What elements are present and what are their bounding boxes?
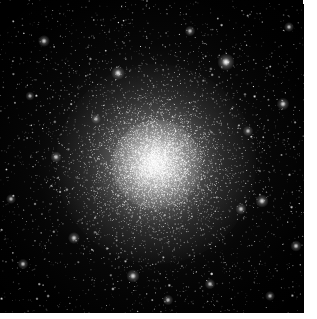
screenshot-root xyxy=(0,0,317,319)
page-margin-right xyxy=(304,0,317,319)
globular-cluster-photo xyxy=(0,0,304,313)
star-field-canvas xyxy=(0,0,304,313)
page-margin-corner xyxy=(303,0,317,4)
page-margin-bottom xyxy=(0,313,317,319)
